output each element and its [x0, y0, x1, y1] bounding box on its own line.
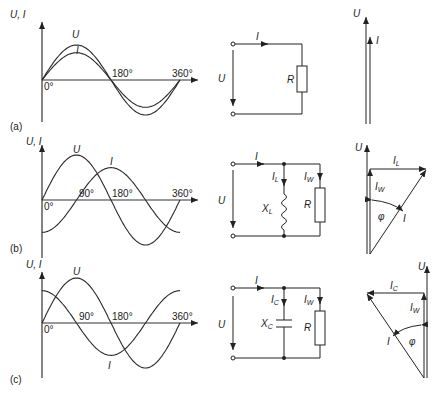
curve-label-U: U [73, 266, 81, 277]
terminal-bottom [231, 356, 235, 360]
graph-a: U, I U I 0° 180° 360° (a) [10, 9, 198, 132]
phasor-IC-label: IC [390, 280, 399, 292]
voltage-label: U [218, 73, 226, 84]
y-axis-label: U, I [26, 136, 42, 147]
graph-b: U, I U I 0° 90° 180° 360° (b) [10, 136, 198, 258]
tick-360: 360° [172, 188, 193, 199]
phasor-I-label: I [376, 35, 379, 46]
circuit-b: I U IL IW XL R [218, 151, 325, 238]
branch-label-IC: IC [271, 294, 280, 306]
graph-c: U, I U I 0° 90° 180° 360° (c) [10, 259, 198, 385]
resistor-label: R [304, 199, 311, 210]
phasor-I-label: I [387, 336, 390, 347]
tick-180: 180° [112, 311, 133, 322]
resistor-label: R [304, 322, 311, 333]
circuit-a: I U R [218, 31, 307, 116]
terminal-top [231, 42, 235, 46]
phasor-IW-label: IW [410, 302, 421, 314]
phasor-IL-label: IL [393, 155, 400, 167]
voltage-label: U [218, 319, 226, 330]
current-label: I [256, 31, 259, 42]
terminal-top [231, 286, 235, 290]
y-axis-label: U, I [26, 259, 42, 270]
tick-180: 180° [112, 188, 133, 199]
phase-angle-arc [372, 200, 403, 211]
curve-label-I: I [108, 360, 111, 371]
tick-90: 90° [79, 311, 94, 322]
tick-360: 360° [172, 311, 193, 322]
resistor-label: R [287, 74, 294, 85]
voltage-label: U [218, 195, 226, 206]
tick-90: 90° [79, 188, 94, 199]
row-label: (b) [10, 243, 22, 254]
branch-label-IW: IW [304, 171, 315, 183]
inductor-label: XL [261, 203, 273, 215]
branch-label-IW: IW [304, 294, 315, 306]
phasor-a: U I [353, 8, 379, 124]
phasor-b: U IL IW φ I [355, 142, 426, 254]
capacitor-label: XC [260, 318, 274, 330]
resistor [297, 66, 307, 92]
tick-0: 0° [44, 81, 54, 92]
current-label: I [255, 151, 258, 162]
phasor-U-label: U [418, 261, 426, 272]
terminal-bottom [231, 112, 235, 116]
phasor-U-label: U [355, 142, 363, 153]
curve-label-U: U [73, 144, 81, 155]
tick-0: 0° [44, 324, 54, 335]
phasor-IW-label: IW [375, 181, 386, 193]
curve-label-I: I [110, 156, 113, 167]
current-label: I [255, 275, 258, 286]
phasor-U-label: U [353, 8, 361, 19]
terminal-top [231, 162, 235, 166]
row-label: (a) [10, 121, 22, 132]
y-axis-label: U, I [10, 9, 26, 20]
phi-label: φ [378, 211, 385, 222]
resistor [315, 188, 325, 222]
phasor-c: U IC IW φ I [367, 261, 427, 378]
tick-0: 0° [44, 201, 54, 212]
phasor-I-label: I [403, 213, 406, 224]
curve-label-U: U [72, 29, 80, 40]
phi-label: φ [409, 336, 416, 347]
tick-180: 180° [112, 68, 133, 79]
tick-360: 360° [172, 68, 193, 79]
row-label: (c) [10, 374, 22, 385]
inductor [282, 194, 287, 230]
circuit-c: I U IC IW XC R [218, 275, 325, 360]
resistor [315, 311, 325, 345]
branch-label-IL: IL [272, 171, 279, 183]
curve-label-I: I [76, 45, 79, 56]
phase-angle-arc [393, 325, 421, 336]
ac-circuits-diagram: U, I U I 0° 180° 360° (a) I U R U I U, I… [0, 0, 439, 396]
terminal-bottom [231, 234, 235, 238]
